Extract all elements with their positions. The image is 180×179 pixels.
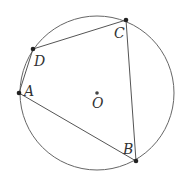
segment-ab [19,93,136,161]
geometry-diagram: A B C D O [0,0,180,179]
point-d [31,47,36,52]
diagram-svg: A B C D O [0,0,180,179]
point-b [134,159,139,164]
label-o: O [92,95,104,111]
segment-bc [126,20,136,161]
label-c: C [114,25,125,41]
point-a [17,91,22,96]
label-d: D [33,53,45,69]
label-b: B [122,141,133,157]
point-c [124,18,129,23]
label-a: A [22,83,34,99]
